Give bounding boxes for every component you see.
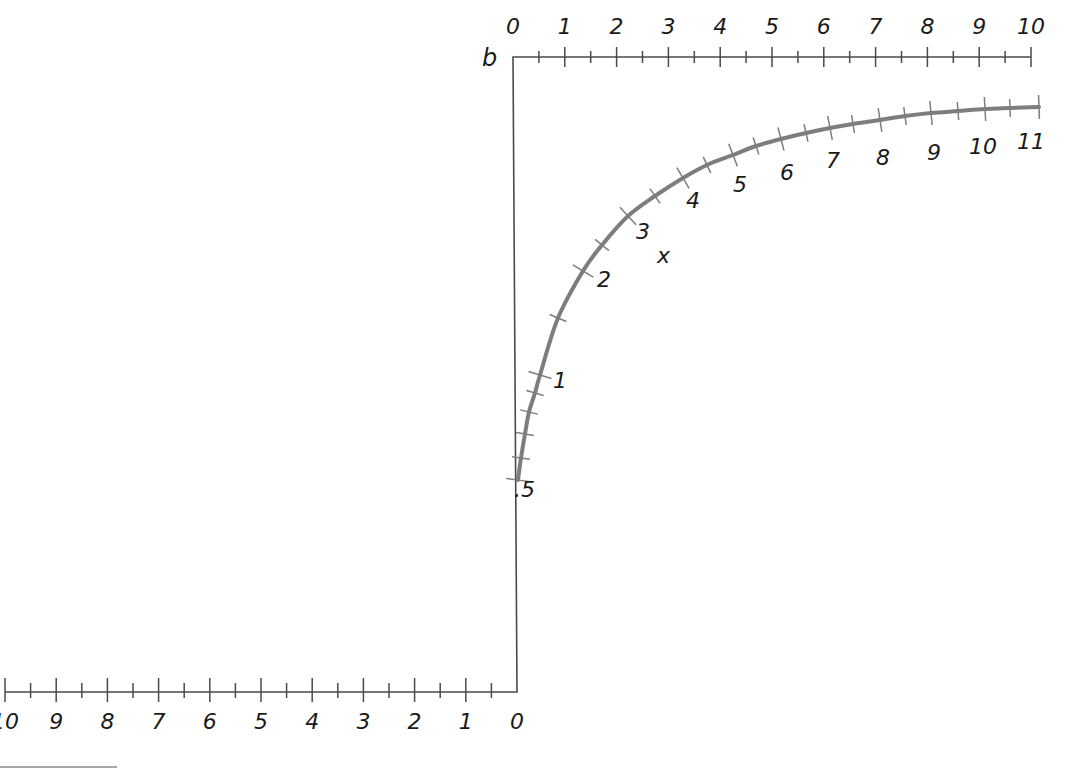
bottom-scale-label: 6	[203, 709, 217, 734]
bottom-scale-label: 5	[254, 709, 268, 734]
top-scale-label: 8	[920, 14, 934, 39]
curve-line	[518, 107, 1039, 480]
curve-scale-x: .51234567891011 x	[506, 95, 1045, 502]
top-scale-name: b	[482, 44, 497, 72]
minor-tick	[650, 189, 660, 204]
curve-scale-ticks	[506, 95, 1039, 482]
bottom-scale-label: 0	[510, 709, 524, 734]
minor-tick	[1010, 99, 1011, 117]
curve-scale-label: 5	[733, 172, 747, 197]
top-scale-label: 4	[713, 14, 727, 39]
major-tick	[677, 168, 689, 189]
bottom-scale-label: 3	[356, 709, 370, 734]
bottom-scale-label: 7	[152, 709, 166, 734]
bottom-scale: 109876543210	[0, 678, 524, 734]
major-tick	[984, 97, 985, 121]
bottom-scale-labels: 109876543210	[0, 709, 524, 734]
top-scale-label: 3	[661, 14, 675, 39]
top-scale-label: 0	[506, 14, 520, 39]
top-scale-labels: 012345678910	[506, 14, 1045, 39]
curve-scale-label: 6	[780, 160, 794, 185]
major-tick	[1039, 95, 1040, 119]
nomogram-diagram: b 012345678910 109876543210 .51234567891…	[0, 0, 1068, 775]
minor-tick	[957, 102, 958, 120]
top-scale-label: 10	[1017, 14, 1045, 39]
curve-scale-label: 9	[927, 140, 941, 165]
curve-scale-label: 10	[969, 134, 997, 159]
top-scale-label: 1	[558, 14, 572, 39]
curve-scale-label: 8	[876, 145, 890, 170]
curve-scale-label: 2	[597, 267, 611, 292]
curve-scale-label: 4	[686, 188, 700, 213]
top-scale-label: 9	[972, 14, 986, 39]
curve-scale-label: 11	[1017, 129, 1045, 154]
bottom-scale-ticks	[5, 678, 491, 702]
curve-scale-label: 3	[636, 219, 650, 244]
top-scale-b: b 012345678910	[482, 14, 1045, 72]
curve-scale-label: 7	[826, 148, 840, 173]
top-scale-label: 6	[817, 14, 831, 39]
curve-scale-labels: .51234567891011	[514, 129, 1045, 502]
bottom-scale-label: 10	[0, 709, 19, 734]
bottom-scale-label: 4	[305, 709, 319, 734]
bottom-scale-label: 8	[100, 709, 114, 734]
top-scale-label: 5	[765, 14, 779, 39]
curve-scale-name: x	[656, 243, 671, 268]
top-scale-label: 2	[610, 14, 624, 39]
bottom-scale-label: 9	[49, 709, 63, 734]
bottom-scale-label: 2	[408, 709, 422, 734]
top-scale-label: 7	[869, 14, 883, 39]
bottom-scale-label: 1	[459, 709, 473, 734]
curve-scale-label: .5	[514, 477, 535, 502]
major-tick	[573, 265, 594, 277]
curve-scale-label: 1	[553, 368, 567, 393]
